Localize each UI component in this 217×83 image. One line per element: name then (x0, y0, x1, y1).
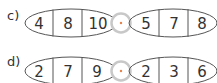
left-cell-value: 4 (34, 15, 44, 33)
exercise-c-figure: 4 8 10 5 7 8 (0, 3, 217, 43)
left-cell-value: 9 (92, 63, 102, 81)
operator-dot (120, 70, 122, 72)
exercise-d: d) 2 7 9 2 3 6 (0, 51, 217, 83)
right-cell-value: 3 (169, 63, 179, 81)
exercise-c: c) 4 8 10 5 7 8 (0, 3, 217, 43)
left-cell-value: 7 (63, 63, 73, 81)
left-cell-value: 2 (34, 63, 44, 81)
right-cell-value: 7 (169, 15, 179, 33)
exercise-d-figure: 2 7 9 2 3 6 (0, 51, 217, 83)
operator-dot (120, 22, 122, 24)
right-cell-value: 6 (197, 63, 207, 81)
left-cell-value: 8 (63, 15, 73, 33)
left-cell-value: 10 (88, 15, 107, 33)
right-cell-value: 8 (197, 15, 207, 33)
right-cell-value: 5 (141, 15, 151, 33)
right-cell-value: 2 (141, 63, 151, 81)
